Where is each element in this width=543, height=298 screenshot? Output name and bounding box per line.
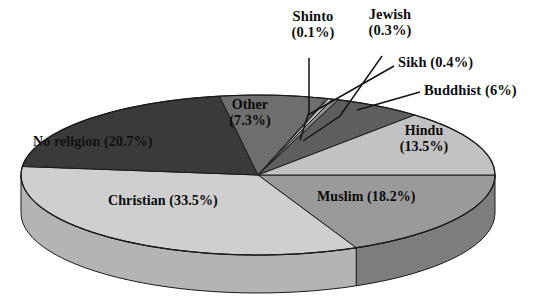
slice-label-shinto: Shinto (0.1%) <box>280 8 346 40</box>
pie-chart: Shinto (0.1%) Jewish (0.3%) Sikh (0.4%) … <box>0 0 543 298</box>
slice-label-no-religion: No religion (20.7%) <box>33 134 239 150</box>
leader-line-buddhist <box>357 92 420 110</box>
slice-label-christian: Christian (33.5%) <box>108 193 278 209</box>
slice-label-hindu: Hindu (13.5%) <box>382 123 466 154</box>
slice-label-buddhist: Buddhist (6%) <box>424 82 543 98</box>
slice-label-sikh: Sikh (0.4%) <box>398 54 538 70</box>
slice-label-other: Other (7.3%) <box>213 97 287 128</box>
slice-label-muslim: Muslim (18.2%) <box>317 189 457 205</box>
slice-label-jewish: Jewish (0.3%) <box>357 6 423 38</box>
